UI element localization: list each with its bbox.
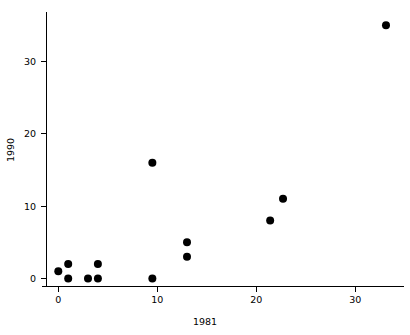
y-tick-label-30: 30: [24, 56, 36, 67]
data-point: [84, 274, 92, 282]
data-point: [64, 274, 72, 282]
data-point: [279, 195, 287, 203]
x-tick-group: [58, 287, 355, 293]
plot-canvas: 30 20 10 0 0 10 20 30 1981 1990: [0, 0, 410, 335]
x-axis-title: 1981: [193, 316, 217, 327]
data-point: [64, 260, 72, 268]
scatter-plot-figure: 30 20 10 0 0 10 20 30 1981 1990: [0, 0, 410, 335]
data-point: [54, 267, 62, 275]
y-axis-title: 1990: [5, 138, 16, 162]
x-tick-label-10: 10: [151, 294, 163, 305]
y-tick-label-10: 10: [24, 201, 36, 212]
data-point: [94, 260, 102, 268]
y-tick-group: [41, 62, 47, 279]
data-point: [148, 274, 156, 282]
data-point: [382, 21, 390, 29]
data-point: [94, 274, 102, 282]
data-point: [148, 159, 156, 167]
data-point: [183, 238, 191, 246]
y-tick-label-0: 0: [30, 273, 36, 284]
x-tick-label-30: 30: [349, 294, 361, 305]
y-tick-label-20: 20: [24, 128, 36, 139]
data-points-layer: [54, 21, 390, 282]
data-point: [183, 253, 191, 261]
x-tick-label-20: 20: [250, 294, 262, 305]
x-tick-label-0: 0: [55, 294, 61, 305]
data-point: [266, 217, 274, 225]
